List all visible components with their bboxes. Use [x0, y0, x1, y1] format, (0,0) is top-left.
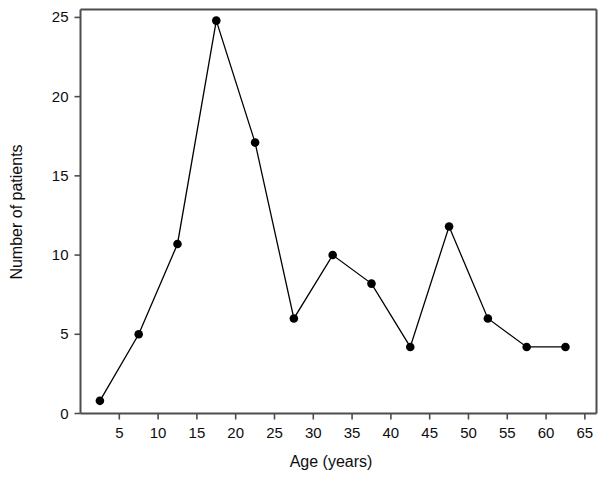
- x-tick-label: 20: [227, 424, 244, 441]
- x-tick-label: 30: [305, 424, 322, 441]
- y-tick-label: 10: [52, 246, 69, 263]
- line-chart: 5101520253035404550556065 0510152025 Age…: [0, 0, 607, 479]
- y-tick-label: 25: [52, 8, 69, 25]
- y-tick-label: 15: [52, 167, 69, 184]
- x-tick-label: 25: [266, 424, 283, 441]
- data-point-marker: [484, 314, 493, 323]
- x-tick-label: 40: [383, 424, 400, 441]
- x-tick-label: 35: [344, 424, 361, 441]
- data-point-marker: [173, 240, 182, 249]
- x-tick-label: 65: [577, 424, 594, 441]
- chart-background: [0, 0, 607, 479]
- y-axis-title: Number of patients: [8, 144, 25, 279]
- x-tick-label: 55: [499, 424, 516, 441]
- x-tick-label: 45: [421, 424, 438, 441]
- data-point-marker: [212, 16, 221, 25]
- data-point-marker: [251, 138, 260, 147]
- x-axis-title: Age (years): [290, 453, 373, 470]
- data-point-marker: [367, 279, 376, 288]
- data-point-marker: [406, 343, 415, 352]
- y-tick-label: 0: [60, 405, 68, 422]
- chart-page: 5101520253035404550556065 0510152025 Age…: [0, 0, 607, 479]
- data-point-marker: [445, 222, 454, 231]
- x-tick-label: 60: [538, 424, 555, 441]
- x-tick-label: 50: [460, 424, 477, 441]
- x-tick-label: 15: [189, 424, 206, 441]
- x-tick-label: 5: [115, 424, 123, 441]
- y-tick-label: 5: [60, 325, 68, 342]
- data-point-marker: [328, 251, 337, 260]
- x-tick-label: 10: [150, 424, 167, 441]
- data-point-marker: [561, 343, 570, 352]
- data-point-marker: [134, 330, 143, 339]
- data-point-marker: [522, 343, 531, 352]
- y-tick-label: 20: [52, 88, 69, 105]
- data-point-marker: [290, 314, 299, 323]
- data-point-marker: [96, 397, 105, 406]
